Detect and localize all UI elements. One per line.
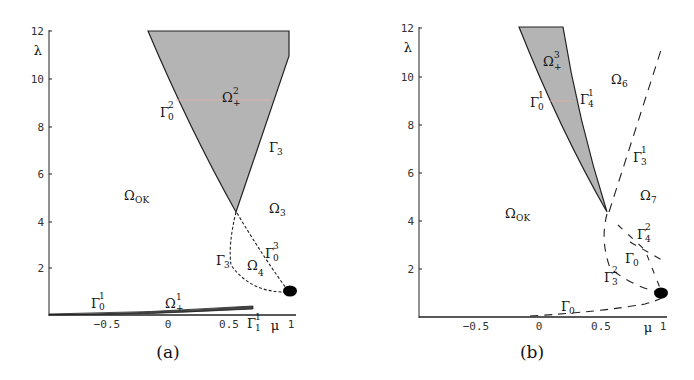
svg-text:OK: OK — [516, 213, 530, 223]
svg-text:Ω: Ω — [165, 296, 176, 311]
x-tick-0-b: 0 — [536, 320, 543, 333]
singular-point-dot-b — [654, 288, 668, 299]
svg-text:0: 0 — [538, 102, 544, 112]
label-gamma-0-bottom: Γ 0 — [561, 299, 575, 316]
svg-text:Ω: Ω — [611, 72, 622, 87]
x-tick-0.5: 0.5 — [219, 318, 239, 331]
label-gamma-0-3: Γ 3 0 — [265, 241, 279, 263]
label-omega-3: Ω 3 — [269, 201, 286, 218]
svg-text:Ω: Ω — [247, 258, 258, 273]
label-gamma-0-1: Γ 1 0 — [91, 291, 105, 312]
svg-text:2: 2 — [645, 222, 651, 232]
svg-text:6: 6 — [622, 79, 628, 89]
shaded-region-omega-plus-3 — [519, 27, 607, 212]
label-omega-4: Ω 4 — [247, 258, 264, 278]
y-axis-label-lambda: λ — [34, 43, 42, 58]
svg-text:7: 7 — [651, 195, 657, 205]
svg-text:1: 1 — [99, 291, 105, 301]
x-axis-label-mu: μ — [271, 318, 279, 333]
svg-text:Ω: Ω — [543, 54, 554, 69]
svg-text:3: 3 — [277, 147, 283, 157]
label-gamma-4-1: Γ 1 4 — [580, 88, 594, 109]
svg-text:3: 3 — [554, 50, 560, 60]
svg-text:2: 2 — [168, 100, 174, 110]
label-gamma-4-2: Γ 2 4 — [637, 222, 651, 244]
y-tick-12-b: 12 — [401, 22, 414, 35]
svg-text:0: 0 — [273, 253, 279, 263]
svg-text:Ω: Ω — [505, 206, 516, 221]
label-omega-7: Ω 7 — [640, 188, 657, 205]
x-tick-neg0.5-b: −0.5 — [463, 320, 490, 333]
y-tick-4-b: 4 — [407, 215, 414, 228]
label-omega-ok: Ω OK — [124, 188, 149, 205]
svg-text:3: 3 — [280, 208, 286, 218]
svg-text:Ω: Ω — [124, 188, 135, 203]
y-tick-8-b: 8 — [407, 119, 414, 132]
y-tick-12: 12 — [31, 25, 44, 38]
y-tick-4: 4 — [37, 216, 44, 229]
x-tick-1: 1 — [288, 318, 295, 331]
svg-text:OK: OK — [135, 195, 149, 205]
svg-text:Ω: Ω — [640, 188, 651, 203]
thin-region-omega-plus-1 — [49, 306, 253, 315]
y-tick-2: 2 — [37, 262, 44, 275]
svg-text:1: 1 — [255, 312, 261, 322]
label-omega-6: Ω 6 — [611, 72, 628, 89]
svg-text:4: 4 — [588, 99, 594, 109]
x-tick-neg0.5: −0.5 — [94, 318, 121, 331]
label-gamma-1-1: Γ 1 1 — [247, 312, 261, 333]
label-gamma-3-dashed: Γ 3 — [216, 253, 230, 270]
svg-text:Ω: Ω — [222, 90, 233, 105]
y-axis-label-lambda-b: λ — [404, 40, 412, 55]
svg-text:3: 3 — [641, 157, 647, 167]
svg-text:+: + — [176, 303, 184, 313]
figure: 12 10 8 6 4 2 λ −0.5 0 0.5 1 μ Ω 2 + Γ 2… — [0, 0, 694, 380]
svg-text:1: 1 — [538, 90, 544, 100]
svg-text:+: + — [233, 98, 241, 108]
caption-a: (a) — [156, 342, 179, 362]
y-tick-10: 10 — [31, 73, 44, 86]
singular-point-dot — [283, 286, 297, 297]
svg-text:0: 0 — [168, 112, 174, 122]
caption-b: (b) — [520, 342, 544, 362]
label-omega-plus-1: Ω 1 + — [165, 292, 184, 313]
y-tick-10-b: 10 — [401, 71, 414, 84]
x-tick-0: 0 — [165, 318, 172, 331]
svg-text:1: 1 — [255, 323, 261, 333]
label-gamma-3-1: Γ 1 3 — [633, 145, 647, 167]
svg-text:3: 3 — [612, 277, 618, 287]
dashed-curve-gamma0-bottom — [530, 296, 664, 316]
y-tick-2-b: 2 — [407, 263, 414, 276]
label-omega-ok-b: Ω OK — [505, 206, 530, 223]
svg-text:4: 4 — [258, 268, 264, 278]
panel-b: 12 10 8 6 4 2 λ −0.5 0 0.5 1 μ Ω 3 + Ω 6… — [401, 22, 668, 362]
svg-text:2: 2 — [233, 86, 239, 96]
svg-text:4: 4 — [645, 234, 651, 244]
panel-a: 12 10 8 6 4 2 λ −0.5 0 0.5 1 μ Ω 2 + Γ 2… — [31, 25, 297, 362]
y-tick-6: 6 — [37, 168, 44, 181]
svg-text:2: 2 — [612, 265, 618, 275]
y-tick-6-b: 6 — [407, 167, 414, 180]
label-gamma-3-2: Γ 2 3 — [604, 265, 618, 287]
label-gamma-3: Γ 3 — [269, 140, 283, 157]
svg-text:3: 3 — [224, 260, 230, 270]
x-axis-label-mu-b: μ — [644, 320, 652, 335]
svg-text:1: 1 — [588, 88, 594, 98]
x-tick-1-b: 1 — [660, 320, 667, 333]
label-gamma-0-2: Γ 2 0 — [160, 100, 174, 122]
y-tick-8: 8 — [37, 121, 44, 134]
svg-text:1: 1 — [176, 292, 182, 302]
dashed-curve-gamma3 — [230, 212, 285, 292]
label-gamma-0-1-b: Γ 1 0 — [530, 90, 544, 112]
svg-text:0: 0 — [99, 302, 105, 312]
svg-text:0: 0 — [569, 306, 575, 316]
svg-text:+: + — [554, 62, 562, 72]
svg-text:1: 1 — [641, 145, 647, 155]
x-tick-0.5-b: 0.5 — [591, 320, 611, 333]
svg-text:3: 3 — [273, 241, 279, 251]
svg-text:0: 0 — [633, 258, 639, 268]
svg-text:Ω: Ω — [269, 201, 280, 216]
label-gamma-0-b: Γ 0 — [625, 251, 639, 268]
